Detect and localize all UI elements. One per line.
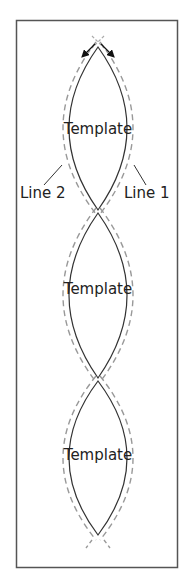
lens-2-template-label: Template bbox=[63, 280, 132, 298]
lens-template-diagram: Template Template Template Line 2 Line 1 bbox=[0, 0, 184, 578]
lens-1-template-label: Template bbox=[63, 120, 132, 138]
lens-1: Template bbox=[63, 42, 133, 214]
line-2-label: Line 2 bbox=[20, 184, 66, 202]
line-2-leader bbox=[44, 165, 62, 185]
lens-2: Template bbox=[63, 208, 133, 382]
bottom-dashed-crossing bbox=[86, 540, 110, 548]
lens-3-template-label: Template bbox=[63, 446, 132, 464]
line-1-leader bbox=[134, 165, 146, 185]
lens-3: Template bbox=[63, 376, 133, 540]
line-1-label: Line 1 bbox=[124, 184, 170, 202]
